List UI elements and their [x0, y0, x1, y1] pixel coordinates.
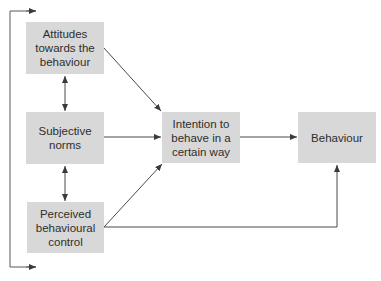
node-intention: Intention to behave in a certain way: [162, 112, 240, 163]
node-attitudes: Attitudes towards the behaviour: [26, 22, 104, 74]
node-behaviour-label: Behaviour: [311, 131, 363, 145]
arrow-control-to-behaviour: [104, 165, 337, 227]
arrow-attitudes-to-intention: [104, 48, 161, 111]
node-subjective-norms-label: Subjective norms: [37, 124, 93, 152]
node-subjective-norms: Subjective norms: [26, 112, 104, 164]
node-intention-label: Intention to behave in a certain way: [166, 117, 236, 159]
node-attitudes-label: Attitudes towards the behaviour: [30, 27, 100, 69]
arrow-control-to-intention: [104, 164, 162, 227]
node-perceived-control-label: Perceived behavioural control: [33, 207, 99, 249]
node-behaviour: Behaviour: [298, 112, 376, 163]
node-perceived-control: Perceived behavioural control: [27, 202, 104, 253]
